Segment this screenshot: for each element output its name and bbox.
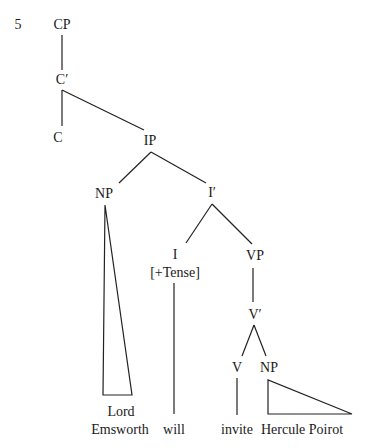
- node-c: C: [53, 131, 62, 145]
- node-c-bar: C′: [56, 73, 68, 87]
- triangle-np_subj: [103, 205, 132, 395]
- node-i-bar: I′: [208, 186, 216, 200]
- node-np-object: NP: [260, 361, 278, 375]
- node-v-bar: V′: [248, 308, 261, 322]
- branch-ip-to-np_subj: [119, 152, 151, 183]
- node-ip: IP: [144, 134, 156, 148]
- node-np-subject: NP: [95, 187, 113, 201]
- branch-i_bar-to-vp: [212, 204, 252, 244]
- branch-i_bar-to-i: [186, 204, 212, 243]
- node-cp: CP: [53, 18, 70, 32]
- leaf-will: will: [163, 423, 185, 437]
- branch-v_bar-to-np_obj: [254, 325, 266, 356]
- leaf-lord: Lord: [107, 405, 134, 419]
- triangle-np_obj: [268, 380, 352, 414]
- tree-triangles: [103, 205, 352, 414]
- node-i: I: [173, 248, 178, 262]
- leaf-emsworth: Emsworth: [91, 423, 149, 437]
- node-vp: VP: [246, 249, 264, 263]
- branch-ip-to-i_bar: [151, 152, 206, 183]
- node-i-feature: [+Tense]: [150, 266, 200, 280]
- leaf-invite: invite: [221, 423, 253, 437]
- branch-v_bar-to-v: [242, 325, 254, 356]
- tree-branches: [62, 35, 266, 415]
- branch-c_bar-to-ip: [62, 90, 144, 130]
- syntax-tree-edges: [0, 0, 372, 448]
- leaf-hercule-poirot: Hercule Poirot: [261, 423, 343, 437]
- node-v: V: [232, 361, 242, 375]
- example-number: 5: [15, 18, 22, 32]
